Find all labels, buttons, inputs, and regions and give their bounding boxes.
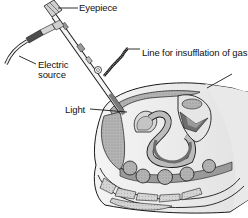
eyepiece-label: Eyepiece	[79, 3, 117, 13]
electric-source-label: Electric source	[38, 60, 68, 80]
light-label: Light	[65, 105, 85, 115]
electric-source-label-line2: source	[38, 70, 68, 80]
laparoscope	[6, 0, 128, 114]
eyepiece	[44, 0, 62, 17]
insufflation-line-label: Line for insufflation of gas	[142, 48, 247, 58]
diagram-illustration	[0, 0, 248, 218]
laparoscopy-diagram: Eyepiece Electric source Line for insuff…	[0, 0, 248, 218]
